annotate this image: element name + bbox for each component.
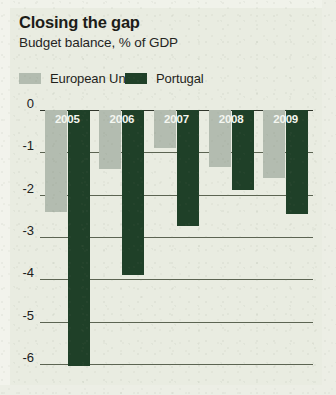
bar-portugal-2007 — [177, 110, 199, 226]
x-axis-year-label: 2008 — [209, 113, 254, 125]
chart-subtitle: Budget balance, % of GDP — [19, 35, 178, 50]
x-axis-year-label: 2009 — [263, 113, 308, 125]
y-axis-tick-label: 0 — [27, 96, 34, 111]
legend-swatch-icon — [125, 73, 147, 84]
y-axis-tick-label: -3 — [22, 223, 34, 238]
bar-portugal-2009 — [286, 110, 308, 214]
legend-item-portugal: Portugal — [125, 70, 204, 86]
legend-label: Portugal — [156, 71, 204, 86]
page-edge-left — [0, 0, 10, 395]
chart-title: Closing the gap — [19, 13, 140, 32]
y-axis-tick-label: -5 — [22, 308, 34, 323]
page-edge-top — [0, 0, 336, 8]
chart-figure: Closing the gap Budget balance, % of GDP… — [0, 0, 336, 395]
bar-portugal-2005 — [68, 110, 90, 366]
y-axis-tick-label: -6 — [22, 350, 34, 365]
plot-area: 0-1-2-3-4-5-620052006200720082009 — [40, 110, 313, 364]
x-axis-year-label: 2005 — [45, 113, 90, 125]
y-axis-tick-label: -4 — [22, 265, 34, 280]
page-edge-bottom — [0, 385, 336, 395]
y-axis-tick-label: -1 — [22, 138, 34, 153]
y-axis-tick-label: -2 — [22, 181, 34, 196]
x-axis-year-label: 2007 — [154, 113, 199, 125]
x-axis-year-label: 2006 — [99, 113, 144, 125]
bar-portugal-2006 — [122, 110, 144, 275]
page-edge-right — [322, 0, 336, 395]
legend-swatch-icon — [19, 73, 41, 84]
bar-eu-2005 — [45, 110, 67, 212]
